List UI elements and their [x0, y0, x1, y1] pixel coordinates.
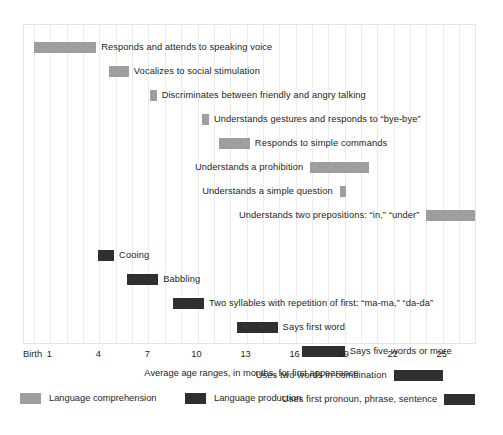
- chart-container: Responds and attends to speaking voiceVo…: [0, 0, 503, 435]
- chart-row: Responds to simple commands: [24, 133, 475, 157]
- legend-item: Language production: [185, 390, 301, 406]
- bar-label: Uses first pronoun, phrase, sentence: [282, 390, 438, 409]
- x-tick-label: 1: [47, 348, 52, 360]
- bar-label: Responds to simple commands: [255, 134, 387, 153]
- x-tick-label: 13: [240, 348, 250, 360]
- range-bar: [173, 298, 204, 309]
- chart-row: Babbling: [24, 269, 475, 293]
- chart-row: Vocalizes to social stimulation: [24, 61, 475, 85]
- bar-label: Responds and attends to speaking voice: [101, 38, 272, 57]
- range-bar: [219, 138, 250, 149]
- bar-label: Two syllables with repetition of first: …: [209, 294, 433, 313]
- legend-label: Language comprehension: [49, 393, 157, 403]
- chart-row: Two syllables with repetition of first: …: [24, 293, 475, 317]
- range-bar: [98, 250, 114, 261]
- chart-row: Understands a simple question: [24, 181, 475, 205]
- x-tick-label: 25: [437, 348, 447, 360]
- range-bar: [444, 394, 475, 405]
- range-bar: [202, 114, 209, 125]
- chart-row: Discriminates between friendly and angry…: [24, 85, 475, 109]
- bar-rows: Responds and attends to speaking voiceVo…: [24, 25, 475, 343]
- x-tick-label: 7: [145, 348, 150, 360]
- x-tick-label: 16: [289, 348, 299, 360]
- range-bar: [150, 90, 157, 101]
- legend-swatch: [185, 393, 206, 404]
- range-bar: [310, 162, 369, 173]
- x-tick-label: 19: [338, 348, 348, 360]
- legend-label: Language production: [214, 393, 301, 403]
- legend-swatch: [20, 393, 41, 404]
- range-bar: [34, 42, 96, 53]
- bar-label: Discriminates between friendly and angry…: [162, 86, 366, 105]
- chart-row: Says first word: [24, 317, 475, 341]
- chart-row: Responds and attends to speaking voice: [24, 37, 475, 61]
- range-bar: [340, 186, 347, 197]
- chart-row: Understands gestures and responds to “by…: [24, 109, 475, 133]
- range-bar: [426, 210, 475, 221]
- range-bar: [109, 66, 129, 77]
- chart-row: Understands a prohibition: [24, 157, 475, 181]
- x-tick-label: 10: [191, 348, 201, 360]
- legend-item: Language comprehension: [20, 390, 157, 406]
- bar-label: Understands a prohibition: [195, 158, 303, 177]
- bar-label: Vocalizes to social stimulation: [134, 62, 260, 81]
- range-bar: [237, 322, 278, 333]
- x-tick-label: 22: [388, 348, 398, 360]
- bar-label: Understands two prepositions: “in,” “und…: [239, 206, 420, 225]
- chart-row: Understands two prepositions: “in,” “und…: [24, 205, 475, 229]
- chart-row: Cooing: [24, 245, 475, 269]
- plot-area: Responds and attends to speaking voiceVo…: [23, 24, 476, 344]
- range-bar: [127, 274, 158, 285]
- x-axis-title: Average age ranges, in months, for first…: [0, 368, 503, 378]
- bar-label: Understands a simple question: [202, 182, 333, 201]
- x-tick-label: Birth: [23, 348, 42, 360]
- bar-label: Says first word: [283, 318, 345, 337]
- bar-label: Understands gestures and responds to “by…: [214, 110, 421, 129]
- x-axis-tick-labels: Birth147101316192225: [23, 348, 476, 362]
- bar-label: Cooing: [119, 246, 149, 265]
- x-tick-label: 4: [96, 348, 101, 360]
- bar-label: Babbling: [163, 270, 200, 289]
